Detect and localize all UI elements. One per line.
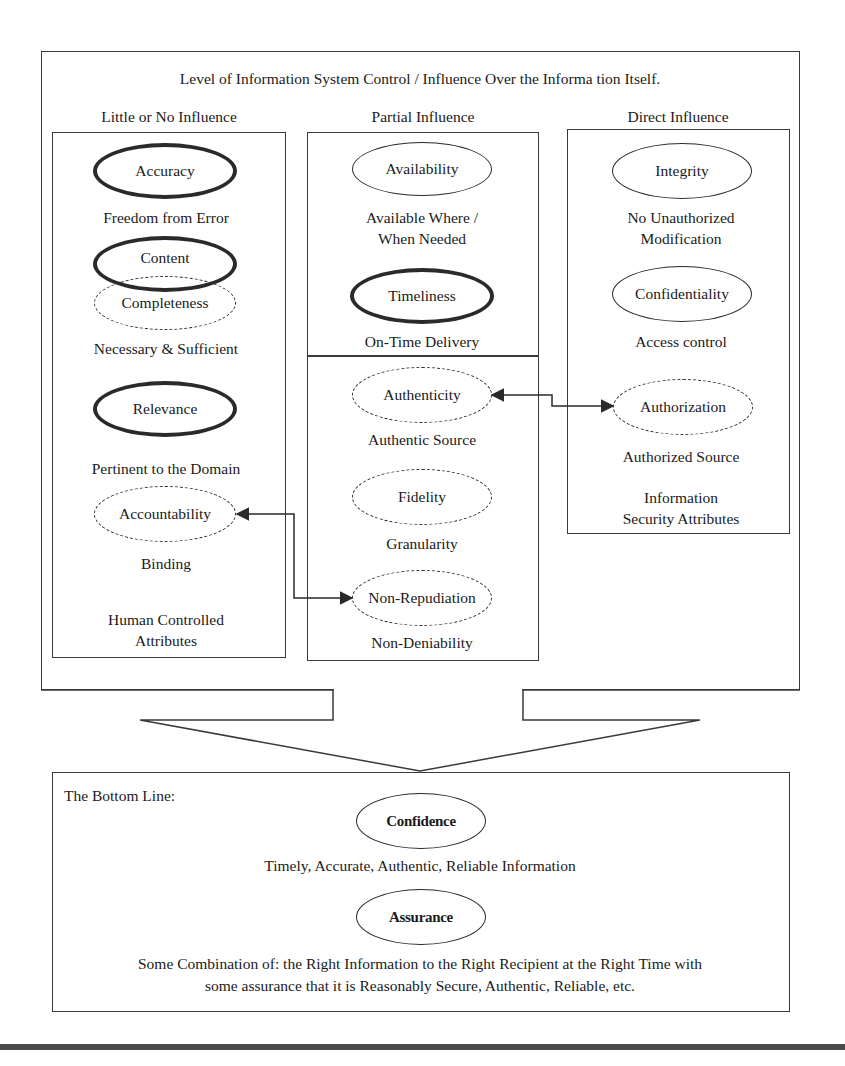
ellipse-authorization: Authorization — [613, 379, 753, 435]
description-assurance-2: some assurance that it is Reasonably Sec… — [205, 976, 635, 995]
footer-info-security-2: Security Attributes — [623, 509, 740, 528]
description-completeness: Necessary & Sufficient — [94, 339, 238, 358]
description-non-repudiation: Non-Deniability — [371, 633, 473, 652]
description-timeliness: On-Time Delivery — [365, 332, 479, 351]
description-availability-1: Available Where / — [366, 208, 478, 227]
ellipse-label: Confidence — [386, 813, 456, 830]
ellipse-label: Accuracy — [135, 162, 194, 180]
ellipse-confidentiality: Confidentiality — [612, 266, 752, 322]
ellipse-label: Accountability — [119, 505, 211, 523]
description-availability-2: When Needed — [378, 229, 466, 248]
column-divider — [307, 355, 539, 357]
bottom-line-label: The Bottom Line: — [64, 786, 175, 805]
ellipse-label: Integrity — [655, 162, 708, 180]
ellipse-label: Authenticity — [383, 386, 461, 404]
ellipse-integrity: Integrity — [612, 143, 752, 199]
funnel-arrow — [41, 690, 800, 771]
ellipse-label: Authorization — [640, 398, 726, 416]
description-integrity-2: Modification — [641, 229, 722, 248]
description-fidelity: Granularity — [386, 534, 457, 553]
ellipse-non-repudiation: Non-Repudiation — [352, 570, 492, 626]
page-separator-rule — [0, 1044, 845, 1050]
description-confidence: Timely, Accurate, Authentic, Reliable In… — [264, 856, 575, 875]
description-confidentiality: Access control — [635, 332, 727, 351]
ellipse-completeness: Completeness — [94, 276, 236, 330]
ellipse-availability: Availability — [352, 142, 492, 196]
ellipse-timeliness: Timeliness — [350, 268, 494, 324]
column-heading-little-influence: Little or No Influence — [101, 107, 237, 126]
ellipse-accuracy: Accuracy — [93, 143, 237, 199]
ellipse-fidelity: Fidelity — [352, 469, 492, 525]
ellipse-label: Confidentiality — [635, 285, 729, 303]
ellipse-label: Non-Repudiation — [368, 589, 476, 607]
ellipse-label: Assurance — [389, 909, 453, 926]
footer-human-controlled-1: Human Controlled — [108, 610, 224, 629]
diagram-title: Level of Information System Control / In… — [180, 69, 660, 88]
ellipse-confidence: Confidence — [356, 793, 486, 849]
ellipse-label: Content — [140, 249, 189, 267]
ellipse-authenticity: Authenticity — [352, 367, 492, 423]
ellipse-label: Relevance — [133, 400, 198, 418]
description-authorization: Authorized Source — [623, 447, 740, 466]
column-heading-partial-influence: Partial Influence — [372, 107, 475, 126]
footer-human-controlled-2: Attributes — [135, 631, 197, 650]
ellipse-label: Fidelity — [398, 488, 446, 506]
description-accuracy: Freedom from Error — [103, 208, 229, 227]
ellipse-label: Completeness — [122, 294, 209, 312]
description-assurance-1: Some Combination of: the Right Informati… — [138, 954, 702, 973]
column-heading-direct-influence: Direct Influence — [627, 107, 728, 126]
description-integrity-1: No Unauthorized — [627, 208, 734, 227]
description-accountability: Binding — [141, 554, 191, 573]
description-authenticity: Authentic Source — [368, 430, 476, 449]
description-relevance: Pertinent to the Domain — [92, 459, 241, 478]
ellipse-assurance: Assurance — [356, 889, 486, 945]
ellipse-label: Timeliness — [388, 287, 455, 305]
ellipse-accountability: Accountability — [94, 486, 236, 542]
footer-info-security-1: Information — [644, 488, 718, 507]
funnel-gap — [334, 687, 522, 692]
ellipse-relevance: Relevance — [93, 381, 237, 437]
ellipse-label: Availability — [386, 160, 459, 178]
